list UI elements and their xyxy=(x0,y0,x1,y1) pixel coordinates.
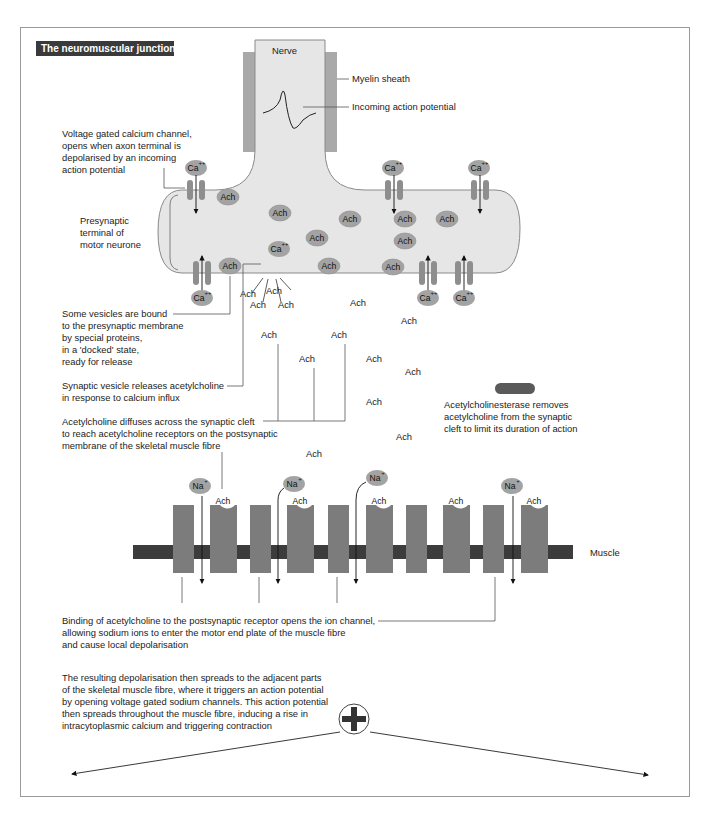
vesicle-label: Ach xyxy=(398,236,413,246)
svg-text:to the presynaptic membrane: to the presynaptic membrane xyxy=(62,320,183,331)
spread-label: The resulting depolarisation then spread… xyxy=(62,672,328,731)
svg-text:of the skeletal muscle fibre,: of the skeletal muscle fibre, where it t… xyxy=(62,684,324,695)
vesicle-label: Ach xyxy=(273,208,288,218)
svg-text:motor neurone: motor neurone xyxy=(80,239,141,250)
svg-text:Ca: Ca xyxy=(194,293,205,303)
svg-text:Synaptic vesicle releases acet: Synaptic vesicle releases acetylcholine xyxy=(62,380,224,391)
svg-text:++: ++ xyxy=(395,160,403,166)
release-label: Synaptic vesicle releases acetylcholine … xyxy=(62,380,224,403)
acetylcholinesterase-enzyme xyxy=(495,383,535,394)
free-ach-molecule: Ach xyxy=(306,448,322,459)
svg-text:in response to calcium influx: in response to calcium influx xyxy=(62,392,180,403)
svg-text:Ach: Ach xyxy=(449,496,464,506)
vesicle-label: Ach xyxy=(343,214,358,224)
svg-text:Ca: Ca xyxy=(471,163,482,173)
presynaptic-label: Presynaptic terminal of motor neurone xyxy=(80,215,141,250)
svg-text:+: + xyxy=(516,478,520,484)
ca-channel-label: Voltage gated calcium channel, opens whe… xyxy=(62,128,192,175)
vesicle-label: Ach xyxy=(398,214,413,224)
svg-text:Ca: Ca xyxy=(188,163,199,173)
svg-text:+: + xyxy=(381,470,385,476)
free-ach-molecule: Ach xyxy=(266,285,282,296)
arrow-left xyxy=(72,732,340,774)
neuromuscular-junction-diagram: The neuromuscular junction Nerve Myelin … xyxy=(0,0,706,816)
ca-channel-6: Ca++ xyxy=(453,256,475,306)
svg-text:+: + xyxy=(204,478,208,484)
presynaptic-terminal xyxy=(158,40,520,273)
svg-text:acetylcholine from the synapti: acetylcholine from the synaptic xyxy=(444,411,573,422)
vesicle-label: Ach xyxy=(440,214,455,224)
svg-text:intracytoplasmic calcium and t: intracytoplasmic calcium and triggering … xyxy=(62,720,272,731)
svg-text:membrane of the skeletal muscl: membrane of the skeletal muscle fibre xyxy=(62,440,220,451)
svg-text:ready for release: ready for release xyxy=(62,356,132,367)
nerve-label: Nerve xyxy=(272,45,297,56)
bound-ach-labels: Ach Ach Ach Ach Ach xyxy=(216,496,542,506)
svg-text:by opening voltage gated sodiu: by opening voltage gated sodium channels… xyxy=(62,696,328,707)
svg-text:cleft to limit its duration of: cleft to limit its duration of action xyxy=(444,423,577,434)
ca-channel-4: Ca++ xyxy=(191,256,213,306)
free-ach-molecule: Ach xyxy=(240,288,256,299)
svg-text:++: ++ xyxy=(281,241,289,247)
svg-text:depolarised by an incoming: depolarised by an incoming xyxy=(62,152,176,163)
svg-text:++: ++ xyxy=(198,160,206,166)
vesicle-label: Ach xyxy=(221,192,236,202)
free-ach-molecule: Ach xyxy=(331,329,347,340)
svg-text:Ca: Ca xyxy=(271,244,282,254)
myelin-right xyxy=(325,52,337,152)
ca-channel-5: Ca++ xyxy=(417,256,439,306)
svg-text:Acetylcholinesterase removes: Acetylcholinesterase removes xyxy=(444,399,569,410)
svg-text:Voltage gated calcium channel,: Voltage gated calcium channel, xyxy=(62,128,192,139)
vesicle-label: Ach xyxy=(223,261,238,271)
title-text: The neuromuscular junction xyxy=(41,43,175,54)
free-ach-molecule: Ach xyxy=(401,315,417,326)
svg-text:to reach acetylcholine recepto: to reach acetylcholine receptors on the … xyxy=(62,428,278,439)
myelin-label: Myelin sheath xyxy=(352,73,410,84)
svg-text:Presynaptic: Presynaptic xyxy=(80,215,129,226)
free-ach-molecule: Ach xyxy=(299,353,315,364)
svg-text:++: ++ xyxy=(466,290,474,296)
free-ach-molecule: Ach xyxy=(261,329,277,340)
svg-text:Ach: Ach xyxy=(372,496,387,506)
svg-text:then spreads throughout the mu: then spreads throughout the muscle fibre… xyxy=(62,708,308,719)
svg-text:by special proteins,: by special proteins, xyxy=(62,332,142,343)
svg-text:Ca: Ca xyxy=(456,293,467,303)
svg-text:++: ++ xyxy=(481,160,489,166)
free-ach-molecule: Ach xyxy=(366,353,382,364)
svg-text:opens when axon terminal is: opens when axon terminal is xyxy=(62,140,181,151)
svg-text:Some vesicles are bound: Some vesicles are bound xyxy=(62,308,167,319)
svg-text:Ach: Ach xyxy=(527,496,542,506)
incoming-ap-label: Incoming action potential xyxy=(352,101,456,112)
svg-text:Na: Na xyxy=(370,473,381,483)
muscle-label: Muscle xyxy=(590,547,620,558)
svg-text:++: ++ xyxy=(204,290,212,296)
svg-text:in a 'docked' state,: in a 'docked' state, xyxy=(62,344,139,355)
docked-label: Some vesicles are bound to the presynapt… xyxy=(62,308,183,367)
free-ach-molecule: Ach xyxy=(405,366,421,377)
free-ach-molecule: Ach xyxy=(396,431,412,442)
muscle-fibre-bar xyxy=(133,545,573,559)
title-badge: The neuromuscular junction xyxy=(36,41,175,56)
postsynaptic-receptors xyxy=(173,505,548,573)
arrow-right xyxy=(370,732,648,775)
svg-text:The resulting depolarisation t: The resulting depolarisation then spread… xyxy=(62,672,322,683)
myelin-left xyxy=(243,52,255,152)
free-ach-molecule: Ach xyxy=(250,299,266,310)
svg-text:Na: Na xyxy=(505,481,516,491)
svg-text:+: + xyxy=(298,476,302,482)
svg-text:Ca: Ca xyxy=(385,163,396,173)
svg-text:allowing sodium ions to enter: allowing sodium ions to enter the motor … xyxy=(62,627,346,638)
free-ach-molecule: Ach xyxy=(350,297,366,308)
vesicle-label: Ach xyxy=(386,262,401,272)
svg-text:terminal of: terminal of xyxy=(80,227,124,238)
svg-text:action potential: action potential xyxy=(62,164,125,175)
free-ach-molecule: Ach xyxy=(278,299,294,310)
svg-text:Acetylcholine diffuses across: Acetylcholine diffuses across the synapt… xyxy=(62,416,255,427)
vesicle-label: Ach xyxy=(322,261,337,271)
svg-text:Na: Na xyxy=(193,481,204,491)
vesicle-label: Ach xyxy=(310,233,325,243)
ache-label: Acetylcholinesterase removes acetylcholi… xyxy=(444,399,577,434)
svg-text:and cause local depolarisation: and cause local depolarisation xyxy=(62,639,188,650)
svg-text:Na: Na xyxy=(287,479,298,489)
svg-text:Ca: Ca xyxy=(420,293,431,303)
svg-text:++: ++ xyxy=(430,290,438,296)
